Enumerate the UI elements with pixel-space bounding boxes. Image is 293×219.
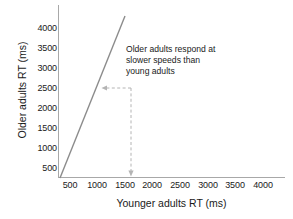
data-line: [60, 16, 125, 178]
chart-annotation: Older adults respond at slower speeds th…: [126, 44, 244, 78]
annotation-line-3: young adults: [126, 66, 244, 77]
x-axis-title: Younger adults RT (ms): [58, 197, 285, 209]
data-series-brinley-function: [60, 16, 125, 178]
clipped-caption-remnant: [8, 214, 285, 219]
horizontal-guide-arrowhead: [102, 85, 108, 90]
annotation-line-2: slower speeds than: [126, 55, 244, 66]
vertical-guide-arrowhead: [128, 171, 133, 177]
horizontal-guide-line: [102, 85, 132, 90]
chart-graphics-layer: [0, 0, 293, 219]
annotation-line-1: Older adults respond at: [126, 44, 244, 55]
plot-area: 4000 3500 3000 2500 2000 1500 1000 500 5…: [0, 0, 293, 219]
y-axis-title: Older adults RT (ms): [16, 25, 28, 155]
vertical-guide-line: [128, 88, 133, 177]
chart-figure: 4000 3500 3000 2500 2000 1500 1000 500 5…: [0, 0, 293, 219]
